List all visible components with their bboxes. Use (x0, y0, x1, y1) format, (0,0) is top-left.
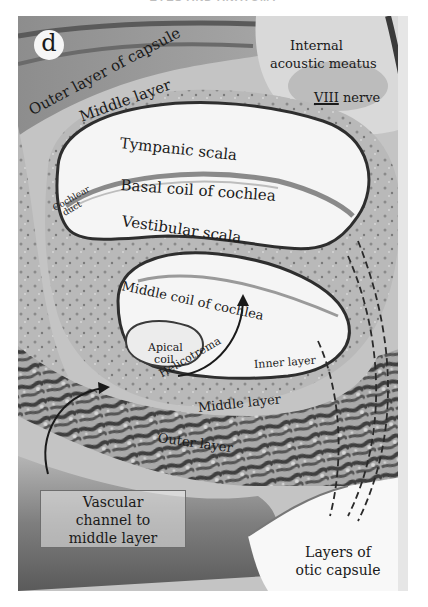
label-layers-of-otic-capsule: Layers of otic capsule (273, 543, 403, 579)
label-vascular: Vascular (41, 493, 185, 511)
label-internal: Internal (290, 38, 343, 53)
label-otic-capsule: otic capsule (273, 561, 403, 579)
label-nerve: nerve (343, 90, 380, 105)
label-channel-to: channel to (41, 511, 185, 529)
page-header: EYES AND ANATOMY (0, 0, 428, 3)
label-vascular-channel-box: Vascular channel to middle layer (40, 490, 186, 548)
cochlea-histology-figure: d Outer layer of capsule Middle layer In… (18, 16, 408, 591)
label-acoustic-meatus: acoustic meatus (270, 56, 377, 71)
label-viii-nerve: VIII nerve (314, 90, 380, 105)
label-layers-of: Layers of (273, 543, 403, 561)
label-middle-layer: middle layer (41, 529, 185, 547)
label-viii: VIII (314, 90, 339, 105)
panel-letter: d (34, 30, 64, 60)
